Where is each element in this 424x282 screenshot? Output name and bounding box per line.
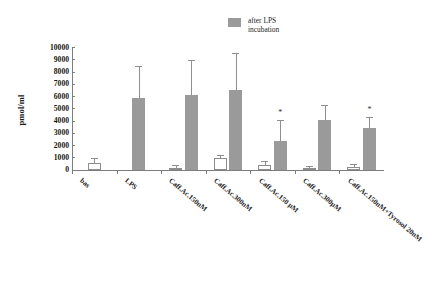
x-axis-tick-mark: [206, 170, 207, 174]
y-axis-tick-label: 0: [65, 166, 72, 174]
x-axis-tick-mark: [117, 170, 118, 174]
y-axis-title-text: pmol/ml: [16, 95, 26, 126]
error-bar-cap: [232, 53, 239, 54]
y-axis-tick-mark: [72, 133, 75, 134]
x-axis-label: Caff.Ac.300nM: [212, 176, 254, 213]
error-bar: [280, 121, 281, 141]
error-bar: [369, 118, 370, 128]
y-axis-tick-mark: [72, 84, 75, 85]
x-axis-label: Caff.Ac.300µM: [301, 176, 343, 213]
error-bar-cap: [261, 161, 268, 162]
x-axis-tick-mark: [339, 170, 340, 174]
error-bar: [220, 156, 221, 158]
y-axis-tick-label: 2000: [54, 141, 72, 149]
plot-area: 1000090008000700060005000400030002000100…: [72, 48, 384, 171]
x-axis-label: bas: [78, 176, 92, 190]
error-bar: [191, 61, 192, 95]
error-bar: [176, 166, 177, 167]
y-axis-title: pmol/ml: [14, 78, 28, 142]
error-bar-cap: [321, 105, 328, 106]
x-axis-tick-mark: [250, 170, 251, 174]
error-bar: [94, 159, 95, 163]
error-bar-cap: [217, 155, 224, 156]
x-axis-line: [72, 170, 384, 171]
bar-treated: [185, 95, 198, 170]
bar-control: [214, 158, 227, 170]
legend-label-after-lps: after LPS incubation: [248, 16, 279, 35]
y-axis-tick-mark: [72, 108, 75, 109]
y-axis-tick-label: 7000: [54, 80, 72, 88]
error-bar: [309, 167, 310, 168]
bar-control: [347, 167, 360, 170]
x-axis-label: LPS: [123, 176, 139, 191]
significance-marker: *: [278, 109, 282, 117]
error-bar: [354, 165, 355, 167]
x-axis-tick-mark: [161, 170, 162, 174]
y-axis-tick-label: 9000: [54, 55, 72, 63]
y-axis-tick-label: 10000: [50, 43, 72, 51]
y-axis-tick-mark: [72, 59, 75, 60]
y-axis-tick-label: 1000: [54, 153, 72, 161]
bar-control: [88, 163, 101, 170]
bar-control: [258, 165, 271, 171]
error-bar-cap: [306, 166, 313, 167]
error-bar: [265, 162, 266, 164]
error-bar: [325, 106, 326, 119]
bar-treated: [274, 141, 287, 170]
y-axis-tick-label: 6000: [54, 92, 72, 100]
y-axis-tick-mark: [72, 145, 75, 146]
y-axis-tick-label: 3000: [54, 129, 72, 137]
y-axis-tick-mark: [72, 72, 75, 73]
error-bar-cap: [366, 117, 373, 118]
error-bar-cap: [172, 165, 179, 166]
error-bar-cap: [350, 164, 357, 165]
error-bar-cap: [91, 158, 98, 159]
x-axis-label: Caff.Ac.150nM: [168, 176, 210, 213]
y-axis-tick-label: 4000: [54, 117, 72, 125]
bar-treated: [229, 90, 242, 170]
error-bar-cap: [135, 66, 142, 67]
y-axis-tick-mark: [72, 47, 75, 48]
chart-legend: after LPS incubation: [228, 16, 279, 35]
x-axis-tick-mark: [295, 170, 296, 174]
y-axis-tick-mark: [72, 96, 75, 97]
error-bar: [236, 54, 237, 90]
x-axis-label: Caff.Ac.150 µM: [257, 176, 300, 214]
bar-treated: [363, 128, 376, 170]
y-axis-tick-mark: [72, 157, 75, 158]
error-bar-cap: [277, 120, 284, 121]
legend-swatch-after-lps: [228, 18, 241, 27]
significance-marker: *: [367, 106, 371, 114]
y-axis-tick-mark: [72, 121, 75, 122]
y-axis-tick-label: 8000: [54, 68, 72, 76]
error-bar-cap: [188, 60, 195, 61]
error-bar: [139, 67, 140, 98]
bar-treated: [318, 120, 331, 170]
y-axis-tick-label: 5000: [54, 104, 72, 112]
bar-treated: [132, 98, 145, 170]
x-axis-tick-mark: [72, 170, 73, 174]
bar-control: [169, 168, 182, 170]
x-axis-label: Caff.Ac.150nM+Tyrosol 20nM: [346, 176, 424, 243]
